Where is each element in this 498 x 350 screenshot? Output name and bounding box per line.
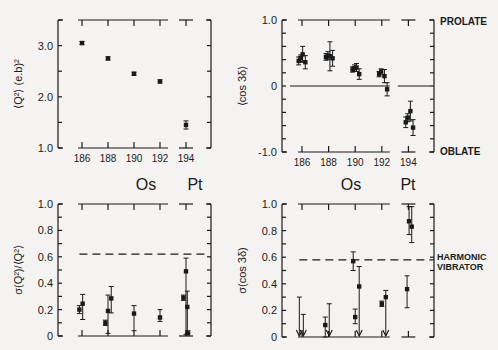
data-point bbox=[184, 269, 188, 273]
y-tick-label: 1.0 bbox=[38, 142, 53, 154]
data-point bbox=[353, 315, 357, 319]
data-point bbox=[351, 259, 355, 263]
y-tick-label: 0 bbox=[271, 80, 277, 92]
data-point bbox=[410, 224, 414, 228]
data-point bbox=[407, 219, 411, 223]
y-tick-label: 0.8 bbox=[38, 224, 53, 236]
data-point bbox=[80, 41, 84, 45]
data-point bbox=[103, 321, 107, 325]
data-point bbox=[405, 287, 409, 291]
data-point bbox=[158, 79, 162, 83]
chart-top-right: 186188190192194-1.001.0⟨cos 3δ⟩ bbox=[236, 14, 434, 168]
data-point bbox=[357, 284, 361, 288]
data-point bbox=[323, 323, 327, 327]
label-pt-right: Pt bbox=[400, 176, 416, 193]
label-prolate: PROLATE bbox=[440, 16, 487, 27]
y-tick-label: 0 bbox=[271, 331, 277, 343]
y-axis-label: ⟨Q²⟩ (e.b)² bbox=[12, 59, 24, 109]
x-tick-label: 192 bbox=[373, 157, 390, 168]
label-harmonic: HARMONIC bbox=[437, 252, 487, 262]
data-point bbox=[408, 109, 412, 113]
label-oblate: OBLATE bbox=[440, 146, 481, 157]
y-tick-label: 2.0 bbox=[38, 91, 53, 103]
y-tick-label: 0.2 bbox=[262, 304, 277, 316]
y-tick-label: 0.2 bbox=[38, 304, 53, 316]
data-point bbox=[303, 60, 307, 64]
y-tick-label: 0 bbox=[47, 330, 53, 342]
x-tick-label: 186 bbox=[294, 157, 311, 168]
y-tick-label: 0.8 bbox=[262, 225, 277, 237]
data-point bbox=[185, 305, 189, 309]
data-point bbox=[406, 115, 410, 119]
data-point bbox=[80, 301, 84, 305]
figure-canvas: 1861881901921941.02.03.0⟨Q²⟩ (e.b)²18618… bbox=[0, 0, 498, 350]
panels-group: 1861881901921941.02.03.0⟨Q²⟩ (e.b)²18618… bbox=[12, 14, 434, 343]
x-tick-label: 190 bbox=[126, 153, 143, 164]
y-tick-label: 1.0 bbox=[262, 14, 277, 26]
x-tick-label: 190 bbox=[347, 157, 364, 168]
label-os-right: Os bbox=[341, 176, 361, 193]
data-point bbox=[109, 296, 113, 300]
x-tick-label: 194 bbox=[400, 157, 417, 168]
data-point bbox=[357, 72, 361, 76]
data-point bbox=[184, 123, 188, 127]
x-tick-label: 194 bbox=[178, 153, 195, 164]
y-tick-label: 0.6 bbox=[38, 251, 53, 263]
data-point bbox=[186, 331, 190, 335]
y-tick-label: 0.4 bbox=[38, 277, 53, 289]
data-point bbox=[380, 302, 384, 306]
chart-bottom-right: 00.20.40.60.81.0σ(cos 3δ) bbox=[236, 198, 434, 343]
data-point bbox=[181, 296, 185, 300]
data-point bbox=[77, 307, 81, 311]
data-point bbox=[384, 295, 388, 299]
data-point bbox=[411, 125, 415, 129]
data-point bbox=[132, 311, 136, 315]
data-point bbox=[158, 315, 162, 319]
data-point bbox=[330, 56, 334, 60]
y-tick-label: 3.0 bbox=[38, 40, 53, 52]
y-tick-label: 0.6 bbox=[262, 251, 277, 263]
chart-top-left: 1861881901921941.02.03.0⟨Q²⟩ (e.b)² bbox=[12, 20, 211, 164]
x-tick-label: 192 bbox=[152, 153, 169, 164]
label-pt-mid: Pt bbox=[187, 176, 203, 193]
x-tick-label: 186 bbox=[74, 153, 91, 164]
y-tick-label: 1.0 bbox=[38, 198, 53, 210]
data-point bbox=[382, 74, 386, 78]
data-point bbox=[385, 87, 389, 91]
data-point bbox=[106, 56, 110, 60]
chart-bottom-left: 00.20.40.60.81.0σ(Q²)/⟨Q²⟩ bbox=[12, 198, 211, 342]
y-axis-label: σ(Q²)/⟨Q²⟩ bbox=[12, 245, 24, 295]
label-vibrator: VIBRATOR bbox=[437, 262, 484, 272]
x-tick-label: 188 bbox=[100, 153, 117, 164]
y-axis-label: ⟨cos 3δ⟩ bbox=[236, 66, 248, 106]
y-axis-label: σ(cos 3δ) bbox=[236, 247, 248, 294]
y-tick-label: 0.4 bbox=[262, 278, 277, 290]
label-os-mid: Os bbox=[136, 176, 156, 193]
x-tick-label: 188 bbox=[320, 157, 337, 168]
data-point bbox=[132, 72, 136, 76]
y-tick-label: 1.0 bbox=[262, 198, 277, 210]
y-tick-label: -1.0 bbox=[258, 146, 277, 158]
